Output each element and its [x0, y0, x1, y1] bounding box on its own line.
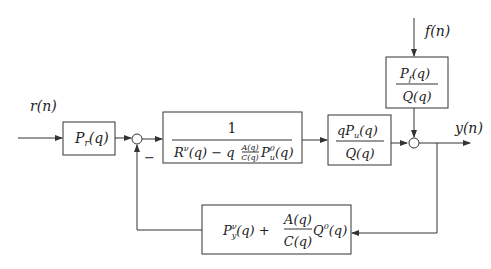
block-diagram: r(n) Pr(q) − 1 Rν(q) − q A(q) C(q) P0u(q… [0, 0, 491, 269]
summing-junction-right [409, 138, 419, 148]
svg-text:Q0(q): Q0(q) [313, 222, 347, 238]
prefilter-block: Pr(q) [63, 122, 115, 155]
controller-inner-denominator: C(q) [241, 153, 258, 162]
prefilter-arg: (q) [89, 130, 109, 146]
feedback-block: Pνy(q) + A(q) C(q) Q0(q) [202, 205, 351, 254]
svg-text:Pνy(q) +: Pνy(q) + [222, 222, 270, 240]
feedback-inner-denominator: C(q) [284, 234, 312, 249]
controller-numerator: 1 [228, 120, 237, 136]
input-signal-label: r(n) [30, 98, 57, 114]
controller-block: 1 Rν(q) − q A(q) C(q) P0u(q) [163, 112, 302, 163]
controller-inner-numerator: A(q) [240, 143, 258, 152]
svg-text:Pr(q): Pr(q) [74, 130, 109, 148]
feedback-inner-numerator: A(q) [283, 212, 312, 227]
svg-text:P0u(q): P0u(q) [260, 144, 293, 162]
disturbance-filter-denominator: Q(q) [402, 89, 431, 104]
disturbance-signal-label: f(n) [424, 23, 450, 39]
controller-denominator: Rν(q) − q [173, 144, 235, 160]
output-signal-label: y(n) [454, 120, 483, 136]
negative-sign: − [144, 150, 155, 165]
prefilter-main: P [74, 130, 85, 146]
svg-text:Pf(q): Pf(q) [399, 66, 430, 83]
disturbance-filter-block: Pf(q) Q(q) [386, 57, 448, 108]
plant-block: qPu(q) Q(q) [328, 115, 391, 165]
plant-denominator: Q(q) [345, 146, 374, 161]
summing-junction-left [132, 134, 142, 144]
